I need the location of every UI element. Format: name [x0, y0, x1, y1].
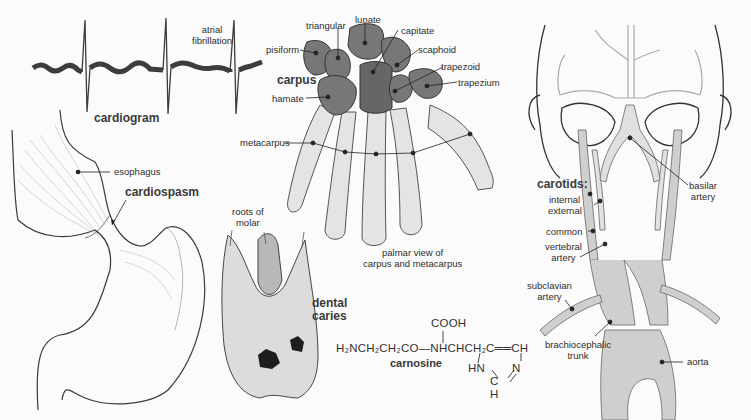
- common-carotid-label: common: [546, 226, 582, 237]
- hand-caption: palmar view of carpus and metacarpus: [363, 247, 462, 269]
- subclavian-line1: subclavian: [527, 280, 572, 291]
- cardiogram-title: cardiogram: [94, 112, 159, 125]
- head-outline: [529, 25, 731, 178]
- triangular-label: triangular: [306, 20, 346, 31]
- aorta-label: aorta: [687, 356, 709, 367]
- hand-caption-line1: palmar view of: [363, 247, 462, 258]
- dental-caries-title: dental caries: [312, 297, 347, 323]
- scaphoid-label: scaphoid: [418, 44, 456, 55]
- vertebral-line2: artery: [545, 252, 582, 263]
- stomach-drawing: [12, 110, 205, 410]
- carnosine-cooh: COOH: [431, 317, 466, 329]
- esophagus-label: esophagus: [114, 166, 160, 177]
- basilar-line1: basilar: [689, 180, 717, 191]
- hand-caption-line2: carpus and metacarpus: [363, 258, 462, 269]
- brachio-line2: trunk: [545, 350, 611, 361]
- carnosine-ring-hn: HN: [468, 362, 485, 374]
- carotids-title: carotids:: [537, 178, 588, 191]
- vertebral-line1: vertebral: [545, 241, 582, 252]
- basilar-artery-label: basilar artery: [689, 180, 717, 202]
- brachio-line1: brachiocephalic: [545, 339, 611, 350]
- brachiocephalic-trunk-label: brachiocephalic trunk: [545, 339, 611, 361]
- external-carotid-label: external: [548, 205, 582, 216]
- carnosine-ring-n: N: [512, 362, 521, 374]
- molar-drawing: [222, 234, 318, 398]
- carnosine-bonds: [443, 331, 521, 382]
- metacarpus-label: metacarpus: [240, 137, 290, 148]
- hamate-label: hamate: [272, 93, 304, 104]
- trapezoid-label: trapezoid: [441, 61, 480, 72]
- pisiform-label: pisiform: [266, 44, 299, 55]
- roots-line1: roots of: [232, 206, 264, 217]
- cerebral-arteries: [558, 25, 702, 98]
- carnosine-ring-h: H: [490, 388, 499, 400]
- vertebral-artery-label: vertebral artery: [545, 241, 582, 263]
- dental-caries-line2: caries: [312, 310, 347, 323]
- carpus-title: carpus: [277, 74, 316, 87]
- subclavian-artery-label: subclavian artery: [527, 280, 572, 302]
- basilar-line2: artery: [689, 191, 717, 202]
- carpal-bones: [304, 24, 443, 115]
- esophagus-pointer: [76, 170, 110, 175]
- atrial-fibrillation-label: atrial fibrillation: [192, 24, 232, 46]
- capitate-label: capitate: [401, 25, 434, 36]
- lunate-label: lunate: [355, 14, 381, 25]
- trapezium-label: trapezium: [458, 77, 500, 88]
- internal-carotid-label: internal: [549, 194, 580, 205]
- subclavian-line2: artery: [527, 291, 572, 302]
- atrial-fibrillation-line1: atrial: [192, 24, 232, 35]
- cardiospasm-pointer: [111, 200, 126, 225]
- illustration-canvas: [0, 0, 751, 420]
- metacarpal-bones: [288, 105, 494, 246]
- atrial-fibrillation-line2: fibrillation: [192, 35, 232, 46]
- roots-line2: molar: [232, 217, 264, 228]
- carnosine-title: carnosine: [390, 357, 442, 370]
- roots-of-molar-label: roots of molar: [232, 206, 264, 228]
- stomach-shading: [18, 125, 175, 300]
- carnosine-ring-c: C: [490, 375, 499, 387]
- carnosine-formula: H₂NCH₂CH₂CO—NHCHCH₂C══CH: [336, 342, 528, 354]
- cardiospasm-title: cardiospasm: [125, 186, 199, 199]
